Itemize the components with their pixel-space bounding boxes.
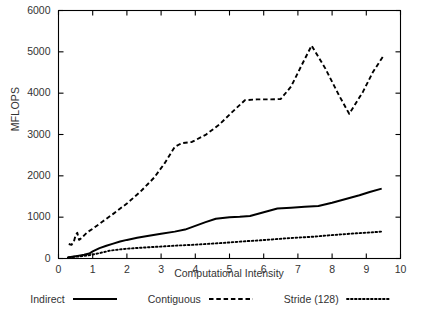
legend-label: Stride (128) — [284, 293, 339, 305]
y-tick-label: 1000 — [0, 210, 51, 222]
chart-legend: IndirectContiguousStride (128) — [0, 289, 422, 309]
y-axis-label: MFLOPS — [5, 69, 23, 149]
legend-label: Indirect — [30, 293, 64, 305]
legend-label: Contiguous — [148, 293, 201, 305]
axis-ticks — [59, 11, 401, 259]
y-tick-label: 6000 — [0, 4, 51, 16]
plot-frame — [59, 11, 401, 259]
legend-entry: Contiguous — [148, 293, 254, 305]
y-tick-label: 2000 — [0, 169, 51, 181]
series-line-indirect — [67, 189, 382, 258]
legend-entry: Indirect — [30, 293, 117, 305]
legend-line-sample — [346, 294, 392, 304]
axes-frame — [59, 11, 401, 259]
series-line-contiguous — [69, 46, 384, 245]
chart-figure: 012345678910 0100020003000400050006000 M… — [0, 0, 422, 310]
y-axis-label-text: MFLOPS — [9, 87, 21, 131]
legend-line-sample — [72, 294, 118, 304]
y-tick-label: 5000 — [0, 45, 51, 57]
data-series — [67, 46, 383, 258]
series-line-stride-128 — [69, 232, 382, 258]
x-axis-label: Computational Intensity — [58, 267, 400, 279]
legend-line-sample — [208, 294, 254, 304]
legend-entry: Stride (128) — [284, 293, 392, 305]
y-tick-label: 0 — [0, 252, 51, 264]
